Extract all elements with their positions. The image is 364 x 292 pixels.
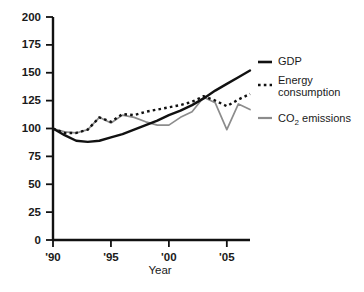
y-tick-label: 25	[28, 206, 41, 218]
legend-label-co2-main: CO	[278, 112, 295, 124]
y-axis-ticks: 0255075100125150175200	[22, 11, 53, 246]
chart-legend: GDP Energy consumption CO2 emissions	[258, 55, 351, 127]
x-tick-label: '90	[45, 251, 61, 263]
legend-label-energy-line2: consumption	[278, 86, 340, 98]
x-axis-ticks: '90'95'00'05	[45, 240, 235, 263]
line-chart: 0255075100125150175200 '90'95'00'05 Year…	[0, 0, 364, 292]
legend-label-co2: CO2 emissions	[278, 112, 351, 127]
legend-label-energy: Energy	[278, 74, 313, 86]
y-tick-label: 100	[22, 122, 41, 134]
y-tick-label: 175	[22, 38, 42, 50]
y-tick-label: 125	[22, 94, 42, 106]
data-series-layer	[53, 71, 250, 142]
legend-label-gdp: GDP	[278, 55, 302, 67]
y-tick-label: 200	[22, 11, 41, 23]
x-tick-label: '95	[103, 251, 119, 263]
x-tick-label: '00	[161, 251, 177, 263]
chart-container: 0255075100125150175200 '90'95'00'05 Year…	[0, 0, 364, 292]
y-tick-label: 0	[35, 234, 41, 246]
y-tick-label: 50	[28, 178, 41, 190]
x-axis-title: Year	[148, 264, 171, 276]
x-tick-label: '05	[219, 251, 235, 263]
y-tick-label: 75	[28, 150, 41, 162]
y-tick-label: 150	[22, 66, 41, 78]
legend-label-co2-tail: emissions	[299, 112, 351, 124]
